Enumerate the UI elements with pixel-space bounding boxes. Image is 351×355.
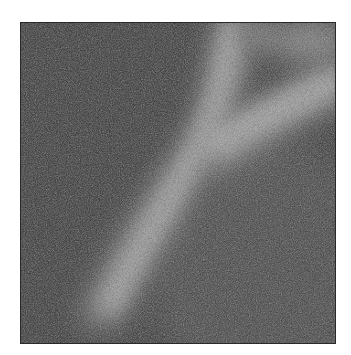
grayscale-image (21, 23, 335, 343)
speck-overlay (21, 23, 335, 343)
image-frame (20, 22, 336, 344)
page (0, 0, 351, 355)
